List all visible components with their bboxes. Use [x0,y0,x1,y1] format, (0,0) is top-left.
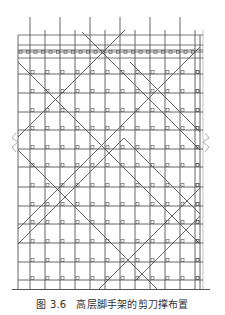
clamp-icon [31,71,34,74]
clamp-icon [196,277,199,280]
clamp-icon [181,90,184,93]
clamp-icon [76,259,79,262]
clamp-icon [121,240,124,243]
clamp-icon [136,184,139,187]
figure-title: 高层脚手架的剪刀撑布置 [76,299,188,310]
scaffold-ledgers [18,74,203,280]
clamp-icon [91,240,94,243]
clamp-icon [196,184,199,187]
clamp-icon [136,164,139,167]
clamp-icon [121,109,124,112]
clamp-icon [76,221,79,224]
clamp-icon [181,164,184,167]
clamp-icon [166,109,169,112]
clamp-icon [121,90,124,93]
scissor-brace [18,138,124,244]
clamp-icon [196,90,199,93]
clamp-icon [196,164,199,167]
clamp-icon [166,71,169,74]
clamp-icon [91,146,94,149]
clamp-icon [106,164,109,167]
figure-number: 图 3.6 [36,299,66,310]
clamp-icon [61,277,64,280]
clamp-icon [196,109,199,112]
clamp-icon [121,259,124,262]
clamp-icon [76,164,79,167]
clamp-icon [166,127,169,130]
clamp-icon [91,109,94,112]
clamp-icon [151,109,154,112]
clamp-icon [166,203,169,206]
clamp-icon [196,184,199,187]
clamp-icon [91,203,94,206]
clamp-icon [166,146,169,149]
clamp-icon [151,240,154,243]
clamp-icon [151,277,154,280]
clamp-icon [121,203,124,206]
clamp-icon [91,164,94,167]
clamp-icon [136,127,139,130]
clamp-icon [91,259,94,262]
clamp-icon [106,109,109,112]
clamp-icon [121,146,124,149]
clamp-icon [181,184,184,187]
clamp-icon [181,71,184,74]
clamp-icon [46,203,49,206]
figure-caption: 图 3.6高层脚手架的剪刀撑布置 [0,296,225,311]
scissor-brace [135,216,200,281]
clamp-icon [61,221,64,224]
clamp-icon [181,146,184,149]
clamp-icon [196,71,199,74]
clamp-icon [166,259,169,262]
clamp-icon [151,221,154,224]
clamp-icon [151,259,154,262]
clamp-icon [181,240,184,243]
clamp-icon [106,146,109,149]
clamp-icon [106,127,109,130]
clamp-icon [76,203,79,206]
clamp-icon [46,184,49,187]
clamp-icon [151,146,154,149]
clamp-icon [76,146,79,149]
clamp-icon [196,164,199,167]
scaffold-diagram [0,0,225,290]
clamp-icon [106,259,109,262]
clamp-icon [196,203,199,206]
clamp-icon [121,277,124,280]
scissor-brace [98,188,200,290]
clamp-icon [31,109,34,112]
clamp-icon [181,109,184,112]
clamp-icon [196,90,199,93]
clamp-icon [106,184,109,187]
clamp-icon [31,277,34,280]
clamp-icon [91,127,94,130]
clamp-icon [46,71,49,74]
clamp-icon [151,90,154,93]
clamp-icon [151,127,154,130]
clamp-icon [121,184,124,187]
clamp-icon [91,71,94,74]
clamp-icon [31,184,34,187]
clamp-icon [196,259,199,262]
clamp-icon [196,203,199,206]
clamp-icon [166,184,169,187]
clamp-icon [121,221,124,224]
clamp-icon [106,221,109,224]
clamp-icon [31,240,34,243]
clamp-icon [196,259,199,262]
clamp-icon [46,146,49,149]
clamp-icon [136,203,139,206]
clamp-icon [181,221,184,224]
clamp-icon [76,127,79,130]
clamp-icon [166,277,169,280]
clamp-icon [76,90,79,93]
clamp-icon [136,221,139,224]
clamp-icon [181,277,184,280]
clamp-icon [166,164,169,167]
clamp-icon [31,259,34,262]
clamp-icon [151,184,154,187]
clamp-icon [61,240,64,243]
clamp-icon [166,90,169,93]
clamp-icon [61,203,64,206]
clamp-icon [151,203,154,206]
